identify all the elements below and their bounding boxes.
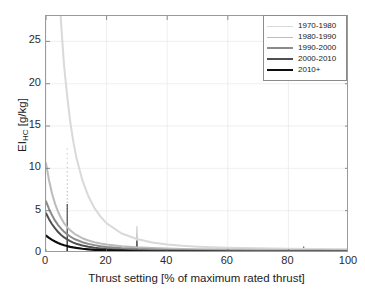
x-tick-label: 40 xyxy=(146,255,186,266)
y-axis-label: EIHC [g/kg] xyxy=(16,55,30,195)
legend-label: 2000-2010 xyxy=(298,55,336,63)
x-tick-label: 0 xyxy=(25,255,65,266)
x-tick-label: 60 xyxy=(207,255,247,266)
legend-line-swatch xyxy=(267,37,293,38)
x-axis-label: Thrust setting [% of maximum rated thrus… xyxy=(45,272,348,284)
legend-line-swatch xyxy=(267,26,293,27)
y-tick-label: 5 xyxy=(1,204,41,215)
legend-line-swatch xyxy=(267,47,293,49)
legend-entry: 1990-2000 xyxy=(267,43,342,53)
legend-entry: 2000-2010 xyxy=(267,54,342,64)
y-axis-label-subscript: HC xyxy=(21,129,30,141)
y-axis-label-main: EI xyxy=(16,141,28,152)
legend-entry: 2010+ xyxy=(267,65,342,75)
legend-line-swatch xyxy=(267,58,293,60)
series-line-1990-2000 xyxy=(46,201,348,251)
x-tick-label: 80 xyxy=(267,255,307,266)
series-line-1980-1990 xyxy=(46,163,348,250)
legend-entry: 1980-1990 xyxy=(267,32,342,42)
legend-label: 1980-1990 xyxy=(298,33,336,41)
legend-label: 1970-1980 xyxy=(298,22,336,30)
legend-entry: 1970-1980 xyxy=(267,21,342,31)
legend-label: 2010+ xyxy=(298,66,320,74)
x-tick-label: 100 xyxy=(328,255,365,266)
chart-legend: 1970-19801980-19901990-20002000-20102010… xyxy=(263,15,347,81)
legend-line-swatch xyxy=(267,69,293,71)
y-axis-label-unit: [g/kg] xyxy=(16,98,28,129)
x-tick-label: 20 xyxy=(86,255,126,266)
y-tick-label: 25 xyxy=(1,34,41,45)
legend-label: 1990-2000 xyxy=(298,44,336,52)
chart-figure: 0510152025 020406080100 EIHC [g/kg] Thru… xyxy=(0,0,365,299)
scatter-cluster xyxy=(67,148,68,252)
